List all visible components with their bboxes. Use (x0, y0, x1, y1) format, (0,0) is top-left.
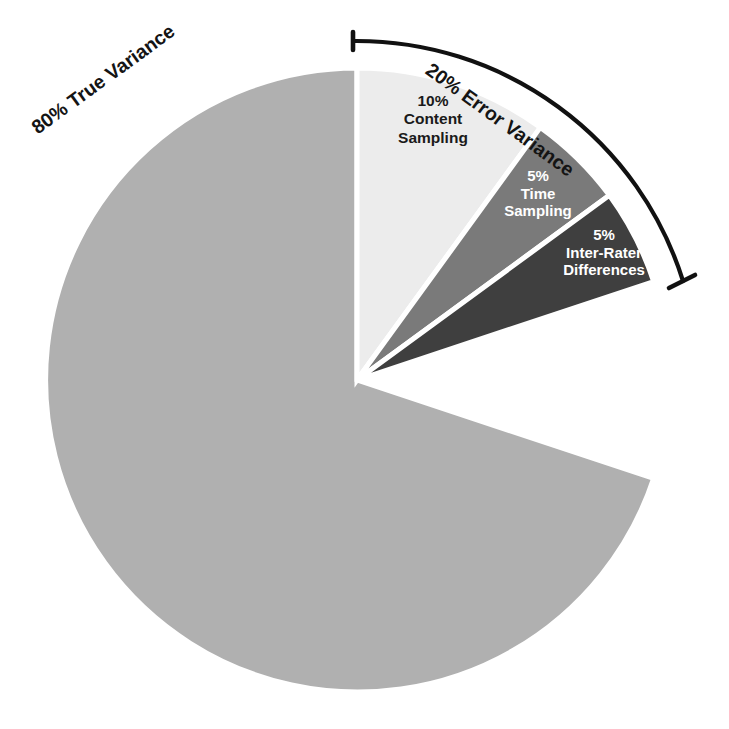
pie-chart-svg (0, 0, 729, 729)
pie-chart-figure: 10% Content Sampling 5% Time Sampling 5%… (0, 0, 729, 729)
